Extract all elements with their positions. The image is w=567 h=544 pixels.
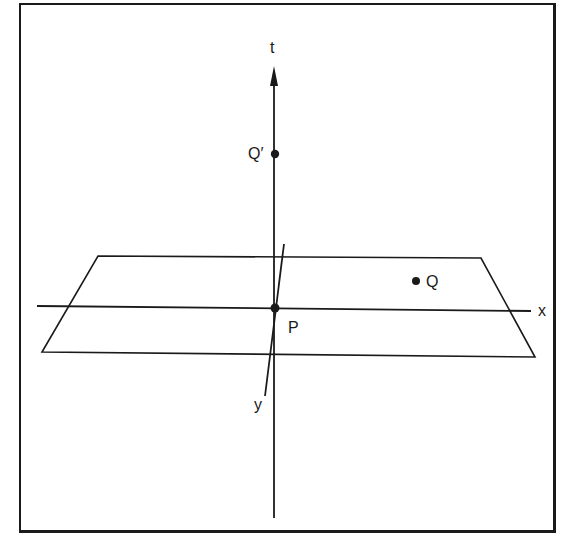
point-q xyxy=(412,277,420,285)
spacetime-diagram xyxy=(0,0,567,544)
point-p xyxy=(271,304,280,313)
t-axis-label: t xyxy=(270,40,274,56)
x-axis xyxy=(37,306,531,311)
point-q-prime-label: Q′ xyxy=(248,146,263,162)
point-p-label: P xyxy=(288,320,299,336)
t-axis-arrow-icon xyxy=(270,66,278,86)
x-axis-label: x xyxy=(538,303,546,319)
point-q-label: Q xyxy=(426,274,438,290)
point-q-prime xyxy=(271,150,279,158)
y-axis-label: y xyxy=(254,397,262,413)
